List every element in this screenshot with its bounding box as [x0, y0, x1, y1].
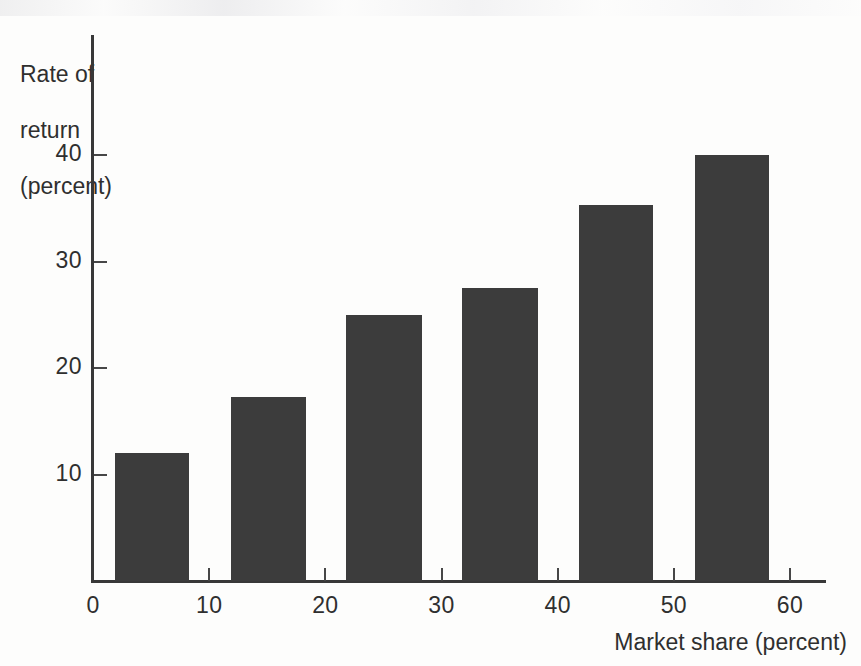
x-axis-tick-mark — [441, 568, 443, 581]
bar — [462, 288, 538, 581]
y-axis-tick-mark — [94, 367, 107, 369]
y-axis-title-line-3: (percent) — [20, 172, 112, 200]
y-axis-tick-label: 10 — [22, 460, 82, 487]
x-axis-tick-label: 50 — [644, 592, 704, 619]
x-axis-tick-label: 10 — [179, 592, 239, 619]
bar — [346, 315, 422, 581]
bar — [579, 205, 653, 581]
y-axis-title-line-1: Rate of — [20, 60, 112, 88]
y-axis-tick-label: 20 — [22, 353, 82, 380]
x-axis-tick-label: 20 — [295, 592, 355, 619]
x-axis-tick-label: 40 — [528, 592, 588, 619]
x-axis-tick-label: 0 — [63, 592, 123, 619]
bar-chart-figure: Rate of return (percent) 10203040 010203… — [0, 0, 861, 666]
y-axis-title: Rate of return (percent) — [20, 32, 112, 228]
y-axis-line — [91, 35, 94, 583]
y-axis-tick-mark — [94, 261, 107, 263]
x-axis-tick-mark — [789, 568, 791, 581]
x-axis-tick-mark — [673, 568, 675, 581]
bar — [231, 397, 305, 581]
bar — [695, 155, 769, 581]
y-axis-tick-mark — [94, 154, 107, 156]
x-axis-tick-mark — [557, 568, 559, 581]
y-axis-tick-label: 30 — [22, 247, 82, 274]
x-axis-tick-label: 30 — [412, 592, 472, 619]
bar — [115, 453, 189, 581]
x-axis-title: Market share (percent) — [614, 628, 847, 656]
x-axis-tick-mark — [208, 568, 210, 581]
y-axis-tick-mark — [94, 474, 107, 476]
y-axis-tick-label: 40 — [22, 140, 82, 167]
scan-noise-band — [0, 0, 861, 16]
x-axis-tick-mark — [324, 568, 326, 581]
x-axis-tick-label: 60 — [760, 592, 820, 619]
